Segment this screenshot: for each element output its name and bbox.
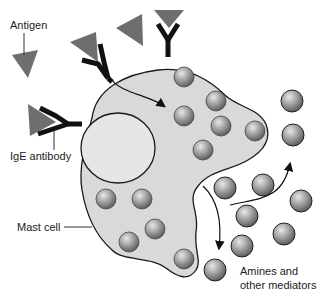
mediators-label-line2: other mediators — [240, 279, 316, 292]
antigen-label: Antigen — [10, 19, 47, 32]
nucleus — [81, 113, 155, 183]
mediators-label-line1: Amines and — [240, 265, 298, 278]
ige-antibody-label: IgE antibody — [10, 150, 71, 163]
ige-antibody-complex — [154, 10, 184, 57]
ige-antibody-complex — [28, 104, 82, 136]
antigen-icon — [116, 14, 143, 46]
mast-cell-label: Mast cell — [17, 221, 60, 234]
antigen-icon — [12, 50, 38, 78]
mast-cell-diagram: Antigen IgE antibody Mast cell Amines an… — [0, 0, 324, 296]
ige-antibody-complex — [70, 32, 112, 82]
